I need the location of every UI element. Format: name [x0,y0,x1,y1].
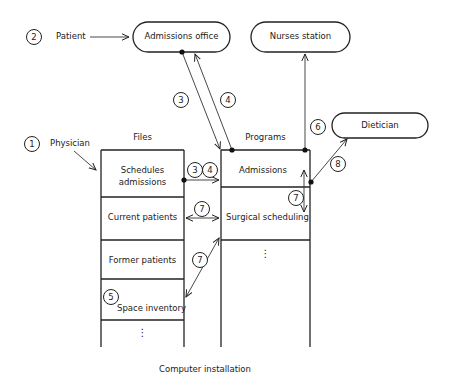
file-row-current-patients: Current patients [101,213,184,222]
programs-continuation: ⋮ [221,248,310,259]
flow-number-3-mid: 3 [187,162,203,178]
diagram-caption: Computer installation [100,365,310,374]
physician-arrow [74,151,96,170]
files-continuation: ⋮ [101,327,184,338]
dietician-label: Dietician [332,121,428,130]
actor-label-physician: Physician [50,139,90,148]
file-row-space-inventory: Space inventory [117,304,186,313]
files-header: Files [101,133,184,142]
flow-number-8: 8 [330,156,346,172]
flow-number-4-top: 4 [220,92,236,108]
actor-number-1: 1 [24,136,40,152]
flow-number-5: 5 [103,289,119,305]
flow-number-7-current: 7 [194,201,210,217]
nurses-station-label: Nurses station [251,32,350,41]
flow-diagram-canvas [0,0,454,383]
flow-number-7-programs: 7 [288,190,304,206]
programs-header: Programs [221,133,310,142]
file-row-former-patients: Former patients [101,256,184,265]
file-row-schedules-line2: admissions [101,178,184,187]
program-row-admissions: Admissions [239,166,287,175]
flow-number-3-top: 3 [173,92,189,108]
actor-number-2: 2 [26,29,42,45]
admissions-office-label: Admissions office [133,32,230,41]
flow-number-6: 6 [310,119,326,135]
actor-label-patient: Patient [56,32,86,41]
program-row-surgical-scheduling: Surgical scheduling [226,213,309,222]
file-row-schedules-line1: Schedules [101,166,184,175]
flow-number-4-mid: 4 [202,162,218,178]
flow-number-7-space: 7 [192,252,208,268]
